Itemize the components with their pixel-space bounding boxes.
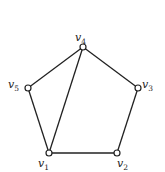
vertex-label-v2: v2 <box>117 157 128 172</box>
labels-group: v1v2v3v4v5 <box>8 31 153 172</box>
graph-diagram: v1v2v3v4v5 <box>0 0 165 172</box>
vertex-label-v5: v5 <box>8 78 19 93</box>
edge-v4-v5 <box>28 47 83 88</box>
vertex-v1 <box>46 150 52 156</box>
edge-v5-v1 <box>28 88 49 153</box>
vertex-v5 <box>25 85 31 91</box>
edges-group <box>28 47 138 153</box>
edge-v3-v4 <box>83 47 138 88</box>
edge-v2-v3 <box>117 88 138 153</box>
edge-v1-v4 <box>49 47 83 153</box>
vertex-label-v3: v3 <box>142 78 153 93</box>
vertex-label-v4: v4 <box>75 31 86 46</box>
vertex-label-v1: v1 <box>38 157 49 172</box>
vertices-group <box>25 44 141 156</box>
vertex-v2 <box>114 150 120 156</box>
vertex-v3 <box>135 85 141 91</box>
